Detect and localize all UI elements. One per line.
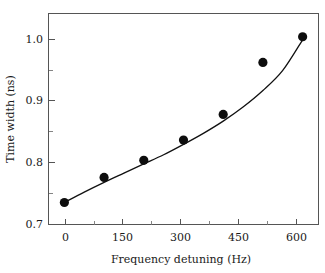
y-axis-ticks (49, 40, 55, 225)
y-axis-title: Time width (ns) (4, 75, 17, 163)
y-tick-label-0: 0.7 (26, 218, 44, 231)
y-tick-label-1: 0.8 (26, 156, 44, 169)
data-point (219, 110, 228, 119)
x-axis-ticks (66, 219, 297, 225)
x-axis-title: Frequency detuning (Hz) (111, 253, 251, 266)
x-tick-label-2: 300 (170, 231, 191, 244)
data-point (258, 58, 267, 67)
x-tick-label-1: 150 (112, 231, 133, 244)
plot-border (49, 14, 319, 225)
x-tick-labels: 0 150 300 450 600 (62, 231, 307, 244)
data-points-group (60, 32, 307, 207)
y-tick-labels: 0.7 0.8 0.9 1.0 (26, 33, 44, 231)
y-tick-label-2: 0.9 (26, 94, 44, 107)
chart-figure: 0.7 0.8 0.9 1.0 0 150 300 450 600 Freque… (0, 0, 325, 273)
plot-frame (49, 14, 319, 225)
x-tick-label-3: 450 (228, 231, 249, 244)
data-point (60, 198, 69, 207)
data-point (139, 156, 148, 165)
data-point (179, 136, 188, 145)
data-point (298, 32, 307, 41)
x-tick-label-0: 0 (62, 231, 69, 244)
data-point (99, 173, 108, 182)
time-width-vs-frequency-detuning-chart: 0.7 0.8 0.9 1.0 0 150 300 450 600 Freque… (0, 0, 325, 273)
y-tick-label-3: 1.0 (26, 33, 44, 46)
x-tick-label-4: 600 (286, 231, 307, 244)
